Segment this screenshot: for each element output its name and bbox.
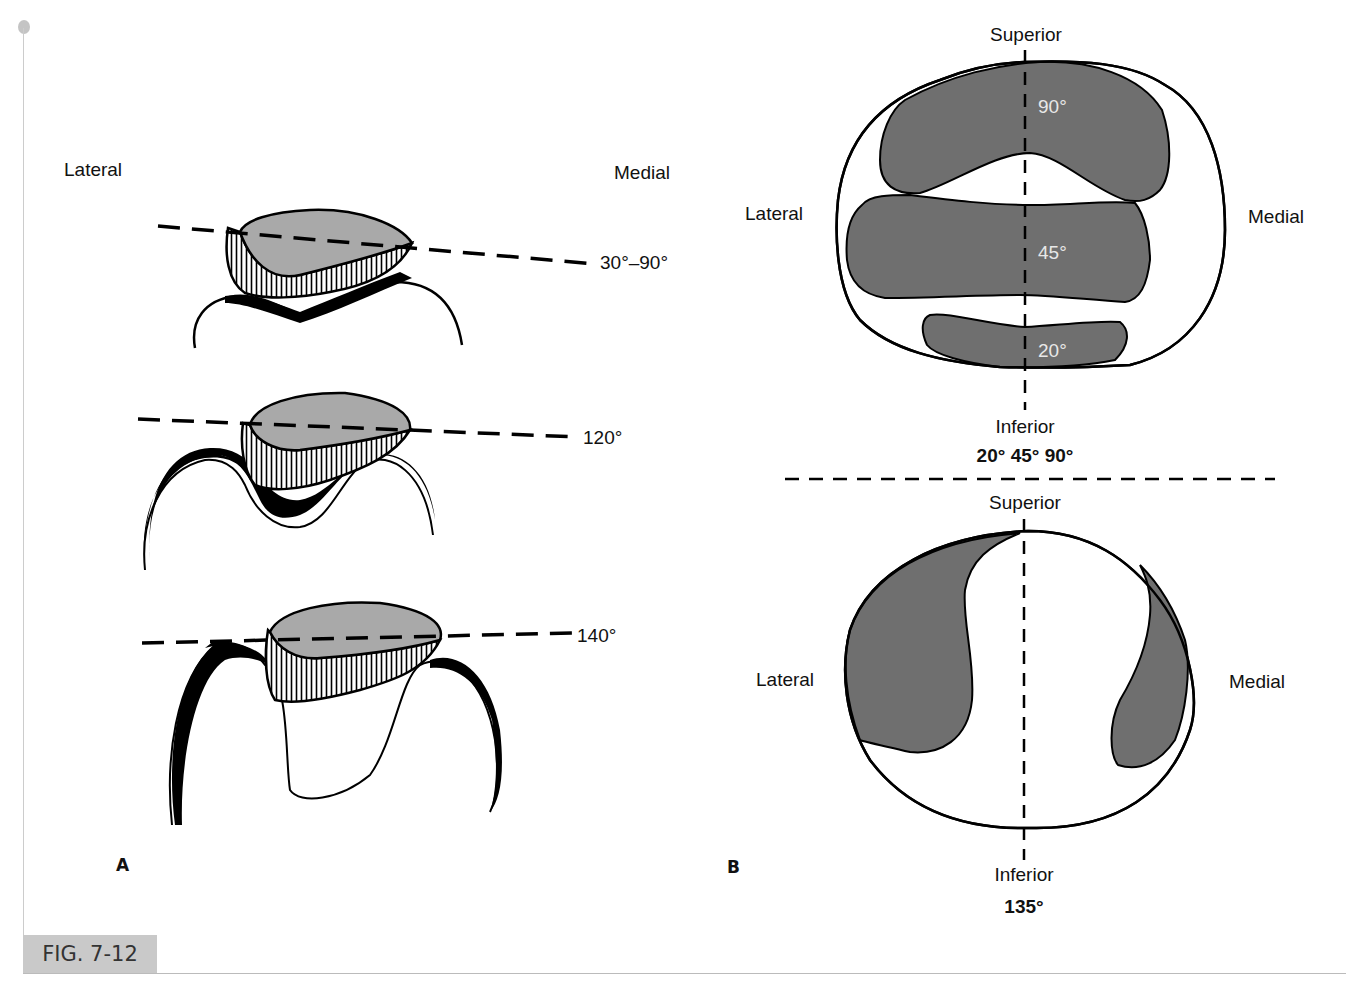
figure-7-12: Lateral Medial 30°–90° 120° 140° A Super…	[0, 0, 1346, 987]
label-superior-top: Superior	[990, 24, 1062, 46]
panel-letter-a: A	[116, 855, 129, 875]
contact-map-135	[845, 519, 1194, 860]
caption-bottom: 135°	[1004, 896, 1043, 918]
caption-top: 20° 45° 90°	[977, 445, 1074, 467]
figure-artwork	[0, 0, 1346, 987]
label-inferior-bottom: Inferior	[994, 864, 1053, 886]
label-medial-bottom: Medial	[1229, 671, 1285, 693]
angle-label-30-90: 30°–90°	[600, 252, 668, 274]
label-superior-bottom: Superior	[989, 492, 1061, 514]
label-lateral-bottom: Lateral	[756, 669, 814, 691]
figure-tag: FIG. 7-12	[23, 935, 157, 973]
label-inferior-top: Inferior	[995, 416, 1054, 438]
zone-label-20: 20°	[1038, 340, 1067, 362]
contact-map-20-45-90	[837, 50, 1225, 410]
panel-letter-b: B	[727, 857, 740, 877]
zone-label-90: 90°	[1038, 96, 1067, 118]
angle-label-140: 140°	[577, 625, 616, 647]
label-medial-a: Medial	[614, 162, 670, 184]
patella-position-140	[142, 602, 572, 825]
label-medial-top: Medial	[1248, 206, 1304, 228]
label-lateral-a: Lateral	[64, 159, 122, 181]
angle-label-120: 120°	[583, 427, 622, 449]
label-lateral-top: Lateral	[745, 203, 803, 225]
patella-position-120	[138, 393, 578, 570]
patella-position-30-90	[158, 210, 596, 348]
zone-label-45: 45°	[1038, 242, 1067, 264]
